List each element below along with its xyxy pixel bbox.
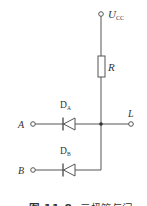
ucc-terminal	[99, 12, 104, 17]
label-ucc: UCC	[108, 8, 124, 21]
figure-caption: 图 11-8二极管与门	[0, 188, 147, 206]
diode-b-triangle	[64, 164, 76, 176]
input-terminal-a	[31, 122, 36, 127]
resistor	[98, 56, 105, 77]
junction-dot	[99, 122, 103, 126]
diode-and-gate-diagram: UCC R DA DB A B L 图 11-8二极管与门	[0, 0, 147, 206]
label-resistor: R	[107, 61, 115, 73]
output-terminal-l	[129, 122, 134, 127]
label-input-b: B	[18, 165, 24, 176]
diode-a-triangle	[64, 118, 76, 130]
figure-number: 图 11-8	[29, 202, 72, 206]
label-diode-a: DA	[60, 100, 71, 111]
label-diode-b: DB	[60, 146, 71, 157]
input-terminal-b	[31, 168, 36, 173]
label-output-l: L	[127, 108, 134, 119]
label-input-a: A	[17, 119, 25, 130]
figure-title: 二极管与门	[80, 202, 133, 206]
